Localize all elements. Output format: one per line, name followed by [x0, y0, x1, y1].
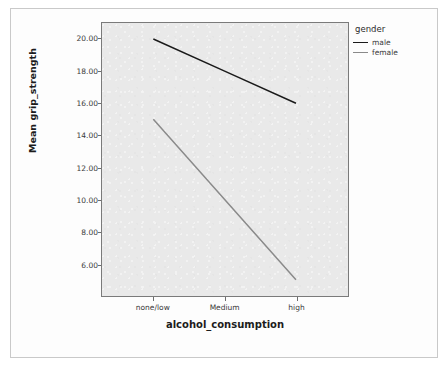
x-tick-mark [297, 297, 298, 301]
series-lines [102, 23, 348, 296]
y-tick-label: 18.00 [52, 66, 98, 75]
y-tick-label: 20.00 [52, 34, 98, 43]
legend-item-female[interactable]: female [353, 48, 429, 57]
y-tick-label: 10.00 [52, 195, 98, 204]
legend-item-label: female [372, 48, 398, 57]
legend-title: gender [355, 24, 429, 34]
x-axis-title: alcohol_consumption [101, 319, 349, 330]
x-tick-label: high [252, 303, 342, 312]
x-axis-ticks: none/lowMediumhigh [101, 297, 349, 319]
y-tick-label: 6.00 [52, 260, 98, 269]
legend-items: malefemale [353, 38, 429, 57]
legend-item-label: male [372, 38, 391, 47]
legend: gender malefemale [353, 24, 429, 58]
y-axis-title: Mean grip_strength [27, 41, 38, 161]
y-axis-ticks: 20.0018.0016.0014.0012.0010.008.006.00 [48, 22, 98, 297]
legend-line-swatch [353, 42, 368, 43]
y-tick-label: 12.00 [52, 163, 98, 172]
series-line-female [153, 119, 296, 279]
y-tick-label: 16.00 [52, 98, 98, 107]
chart-page: Mean grip_strength 20.0018.0016.0014.001… [0, 0, 448, 368]
legend-item-male[interactable]: male [353, 38, 429, 47]
series-line-male [153, 39, 296, 103]
legend-line-swatch [353, 52, 368, 53]
y-tick-label: 14.00 [52, 131, 98, 140]
x-tick-mark [225, 297, 226, 301]
y-tick-label: 8.00 [52, 228, 98, 237]
x-tick-mark [153, 297, 154, 301]
plot-area [101, 22, 349, 297]
